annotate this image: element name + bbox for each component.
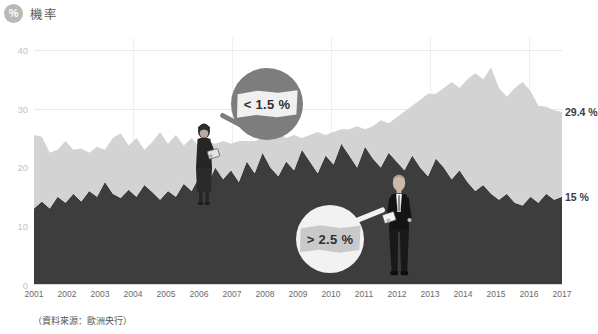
x-axis-tick-label: 2008: [256, 289, 275, 299]
x-axis-tick-label: 2015: [487, 289, 506, 299]
woman-with-tablet-illustration: [188, 122, 220, 206]
percent-badge-icon: %: [4, 4, 23, 23]
x-axis-tick-label: 2004: [124, 289, 143, 299]
x-axis-tick-label: 2017: [553, 289, 572, 299]
bubble-plate-high: > 2.5 %: [299, 225, 362, 254]
y-axis-tick-label: 10: [0, 221, 28, 232]
x-axis-tick-label: 2002: [58, 289, 77, 299]
x-axis-tick-label: 2006: [190, 289, 209, 299]
page-title: 機率: [30, 4, 57, 23]
y-axis-tick-label: 20: [0, 162, 28, 173]
x-axis-tick-label: 2010: [322, 289, 341, 299]
x-axis-line: [34, 284, 562, 285]
chart-header: % 機率: [4, 4, 57, 23]
y-axis-tick-label: 40: [0, 44, 28, 55]
bubble-low-label: < 1.5 %: [244, 97, 291, 112]
upper-end-label: 29.4 %: [565, 106, 598, 118]
man-in-suit-with-tablet-illustration: [382, 172, 416, 280]
source-note: （資料來源：歐洲央行）: [33, 314, 132, 327]
annotation-bubble-high: > 2.5 %: [296, 205, 364, 273]
x-axis-tick-label: 2016: [520, 289, 539, 299]
bubble-plate-low: < 1.5 %: [236, 90, 299, 119]
x-axis-tick-label: 2013: [421, 289, 440, 299]
x-axis-tick-label: 2005: [157, 289, 176, 299]
x-axis-tick-label: 2007: [223, 289, 242, 299]
annotation-bubble-low: < 1.5 %: [231, 68, 303, 140]
x-axis-tick-label: 2014: [454, 289, 473, 299]
x-axis-tick-label: 2012: [388, 289, 407, 299]
x-axis-tick-label: 2009: [289, 289, 308, 299]
y-axis-tick-label: 30: [0, 103, 28, 114]
lower-end-label: 15 %: [565, 191, 589, 203]
x-axis-tick-label: 2001: [25, 289, 44, 299]
x-axis-tick-label: 2003: [91, 289, 110, 299]
x-axis-tick-label: 2011: [355, 289, 373, 299]
bubble-high-label: > 2.5 %: [307, 232, 354, 247]
